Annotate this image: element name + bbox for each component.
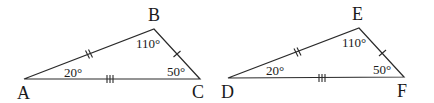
- vertex-label-e: E: [352, 4, 363, 24]
- angle-label-b: 110°: [136, 36, 160, 51]
- vertex-label-a: A: [17, 83, 30, 103]
- angle-label-c: 50°: [167, 64, 185, 79]
- vertex-label-d: D: [221, 82, 234, 102]
- vertex-label-f: F: [397, 81, 407, 101]
- angle-label-f: 50°: [373, 62, 391, 77]
- angle-label-e: 110°: [342, 35, 366, 50]
- angle-label-d: 20°: [266, 63, 284, 78]
- triangle-abc: A B C 20° 110° 50°: [17, 5, 204, 103]
- vertex-label-b: B: [148, 5, 160, 25]
- angle-label-a: 20°: [64, 65, 82, 80]
- vertex-label-c: C: [192, 82, 204, 102]
- congruent-triangles-diagram: A B C 20° 110° 50° D E F 20° 110° 50°: [0, 0, 434, 103]
- triangle-def: D E F 20° 110° 50°: [221, 4, 407, 102]
